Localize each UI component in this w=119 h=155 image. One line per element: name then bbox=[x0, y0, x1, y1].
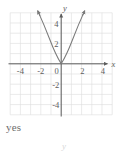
x-tick-label-4: 4 bbox=[101, 66, 106, 76]
x-tick-label-neg2: -2 bbox=[37, 66, 44, 76]
x-axis-letter: x bbox=[111, 59, 116, 69]
y-tick-label-neg2: -2 bbox=[52, 80, 59, 90]
y-tick-label-4: 4 bbox=[54, 19, 59, 29]
parabola-figure: y x -4 -2 2 4 0 4 2 -2 -4 yes y bbox=[0, 0, 119, 155]
footer-y-mark: y bbox=[62, 141, 66, 151]
x-tick-label-neg4: -4 bbox=[17, 66, 25, 76]
y-tick-label-neg4: -4 bbox=[52, 100, 60, 110]
origin-label: 0 bbox=[54, 66, 58, 76]
answer-label: yes bbox=[6, 121, 21, 134]
x-tick-label-2: 2 bbox=[80, 66, 84, 76]
y-tick-label-2: 2 bbox=[54, 39, 58, 49]
y-axis-letter: y bbox=[62, 3, 67, 13]
